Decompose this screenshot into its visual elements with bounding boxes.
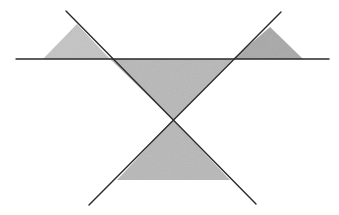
diagram-canvas [0,0,339,215]
geometry-figure [0,0,339,215]
top-middle-triangle [110,59,233,120]
bottom-triangle [117,120,230,180]
shaded-triangles [43,24,303,180]
right-triangle [233,27,303,59]
left-triangle [43,24,110,59]
